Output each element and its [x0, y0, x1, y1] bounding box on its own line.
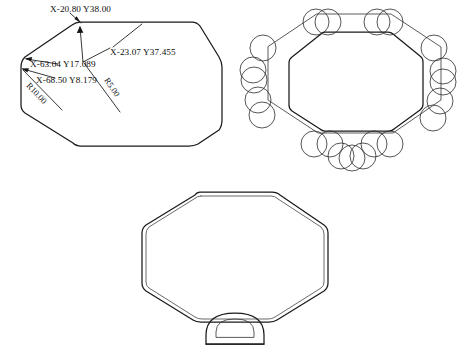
octagon-outline-profile-outer: [142, 192, 328, 322]
view-dimensioned-plan: X-20.80 Y38.00 X-23.07 Y37.455 X-63.04 Y…: [21, 4, 222, 146]
toolpath-circle-top-2: [315, 9, 341, 35]
dim-label-point-top: X-20.80 Y38.00: [50, 4, 111, 14]
dim-label-radius-small: R5.00: [102, 76, 122, 99]
dim-label-point-top-right: X-23.07 Y37.455: [110, 47, 176, 57]
cad-drawing-canvas: X-20.80 Y38.00 X-23.07 Y37.455 X-63.04 Y…: [0, 0, 467, 351]
toolpath-circle-right-3: [420, 105, 446, 131]
toolpath-circle-right-1: [430, 69, 456, 95]
toolpath-circle-bottom-4: [377, 131, 403, 157]
dome-base-outer: [206, 313, 264, 344]
toolpath-circle-upper-right-1: [421, 35, 447, 61]
octagon-outline-profile-inner: [146, 196, 324, 319]
dim-label-point-left-lower: X-68.50 Y8.179: [36, 75, 97, 85]
leader-arrow-point-top-right: [77, 26, 84, 33]
toolpath-circle-left-2: [245, 87, 271, 113]
toolpath-circle-bottom-1: [301, 131, 327, 157]
leader-line-point-top-right-tail: [113, 24, 142, 47]
view-toolpath-circles: [240, 9, 456, 171]
toolpath-circle-left-3: [249, 102, 275, 128]
octagon-outline-toolpath-inner: [289, 32, 423, 131]
toolpath-circle-bottom-3: [361, 131, 387, 157]
leader-line-point-top-right: [80, 27, 110, 62]
toolpath-circle-bottom-2: [317, 131, 343, 157]
dim-label-point-left-upper: X-63.04 Y17.089: [30, 59, 96, 69]
view-offset-profile: [142, 192, 328, 344]
toolpath-circle-upper-right-2: [430, 58, 456, 84]
toolpath-circle-top-1: [303, 9, 329, 35]
